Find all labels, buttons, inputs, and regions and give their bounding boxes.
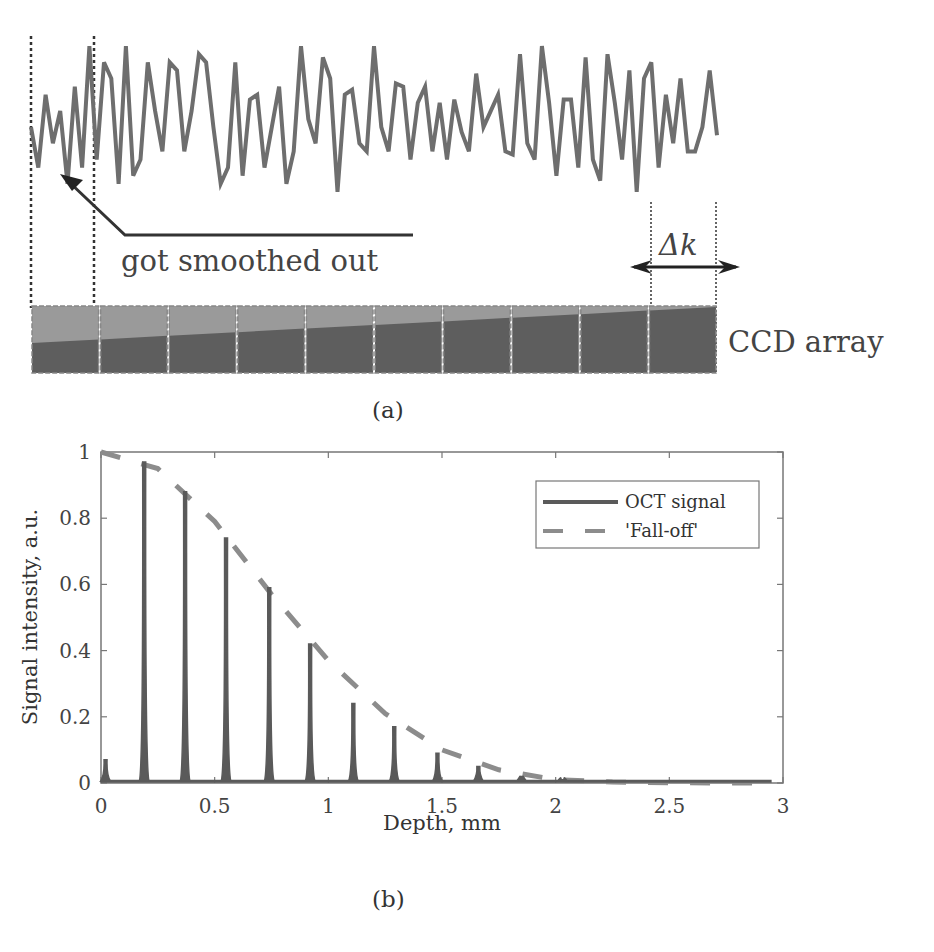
y-axis-label: Signal intensity, a.u. (18, 509, 42, 725)
oct-signal-peak (517, 776, 527, 781)
x-tick-label: 2.5 (653, 794, 685, 818)
x-tick-label: 3 (777, 794, 790, 818)
ccd-pixel (306, 306, 373, 373)
legend: OCT signal 'Fall-off' (536, 481, 759, 548)
y-tick-label: 0.6 (59, 572, 91, 596)
ccd-pixel-illumination (32, 306, 99, 343)
oct-signal-peak (221, 538, 231, 781)
ccd-pixel (649, 306, 716, 373)
ccd-pixel-illumination (306, 306, 373, 329)
legend-oct-signal-label: OCT signal (625, 491, 726, 512)
panel-b-caption: (b) (372, 886, 405, 912)
oct-signal-peak (305, 644, 315, 781)
ccd-pixel (375, 306, 442, 373)
ccd-pixel-illumination (101, 306, 168, 339)
y-tick-label: 0.8 (59, 506, 91, 530)
x-tick-label: 1 (322, 794, 335, 818)
ccd-pixel (444, 306, 511, 373)
delta-k-label: Δk (658, 228, 698, 262)
ccd-array (32, 306, 716, 373)
oct-signal-peak (348, 704, 358, 782)
panel-a-caption: (a) (372, 397, 404, 423)
x-tick-label: 2 (549, 794, 562, 818)
oct-signal-peak (139, 462, 149, 781)
ccd-pixel (169, 306, 236, 373)
figure: got smoothed out Δk CCD array (a) 00.511… (0, 0, 934, 952)
ccd-pixel (32, 306, 99, 373)
y-tick-label: 0.2 (59, 705, 91, 729)
oct-signal-peak (180, 492, 190, 782)
x-tick-label: 0 (95, 794, 108, 818)
y-tick-label: 0.4 (59, 639, 91, 663)
ccd-array-label: CCD array (728, 325, 884, 359)
y-tick-label: 1 (78, 440, 91, 464)
oct-signal-peak (101, 760, 111, 782)
ccd-pixel-body (649, 306, 716, 373)
oct-signal-peak (557, 778, 567, 781)
ccd-pixel-body (581, 306, 648, 373)
x-axis-label: Depth, mm (383, 811, 501, 835)
ccd-pixel (512, 306, 579, 373)
x-tick-label: 0.5 (199, 794, 231, 818)
panel-b-chart: 00.511.522.53 00.20.40.60.81 Depth, mm S… (18, 440, 789, 912)
interference-signal-line (31, 46, 717, 192)
legend-fall-off-label: 'Fall-off' (625, 520, 698, 541)
smoothed-out-annotation: got smoothed out (121, 244, 379, 278)
ccd-pixel (238, 306, 305, 373)
ccd-pixel-illumination (238, 306, 305, 332)
y-tick-label: 0 (78, 771, 91, 795)
ccd-pixel-illumination (169, 306, 236, 336)
oct-signal-peak (389, 727, 399, 782)
oct-signal-peak (432, 753, 442, 781)
oct-signal-peak (264, 588, 274, 782)
ccd-pixel (581, 306, 648, 373)
y-tick-labels: 00.20.40.60.81 (59, 440, 91, 795)
oct-signal-peak (473, 766, 483, 781)
delta-k-double-arrow (630, 260, 740, 274)
ccd-pixel (101, 306, 168, 373)
smoothed-out-arrow (60, 174, 413, 235)
panel-a: got smoothed out Δk CCD array (a) (31, 36, 884, 423)
